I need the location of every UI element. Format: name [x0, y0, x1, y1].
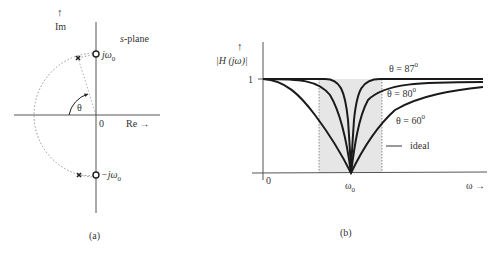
- x-axis-label: ω →: [466, 180, 485, 191]
- x-tick-omega0: ω0: [345, 180, 356, 194]
- y-axis-arrow: ↑: [237, 40, 243, 52]
- lower-zero-label: −jω0: [101, 169, 122, 183]
- angle-label: θ: [77, 102, 82, 113]
- upper-zero-label: jω0: [100, 49, 116, 63]
- im-axis-arrow: ↑: [57, 6, 63, 18]
- magnitude-plot: [252, 42, 487, 180]
- im-axis-label: Im: [55, 21, 66, 32]
- zero-marker-upper: [93, 51, 99, 57]
- legend-ideal-label: ideal: [410, 140, 430, 151]
- y-axis-label: |H (jω)|: [216, 55, 248, 67]
- curve-label-60: θ = 600: [396, 113, 425, 126]
- s-plane-label: s-plane: [120, 33, 149, 44]
- re-axis-label: Re →: [126, 118, 150, 129]
- curve-label-80: θ = 800: [387, 86, 416, 99]
- origin-label: 0: [99, 118, 104, 129]
- curve-label-87: θ = 870: [389, 61, 418, 74]
- figure-canvas: ↑ Im s-plane jω0 θ 0 Re → −jω0 (a) ↑ |H …: [0, 0, 498, 253]
- y-tick-label-1: 1: [248, 74, 253, 85]
- x-axis: [252, 172, 487, 173]
- zero-marker-lower: [93, 172, 99, 178]
- panel-a-caption: (a): [89, 230, 100, 242]
- x-origin-label: 0: [266, 175, 271, 186]
- panel-b-caption: (b): [340, 227, 352, 239]
